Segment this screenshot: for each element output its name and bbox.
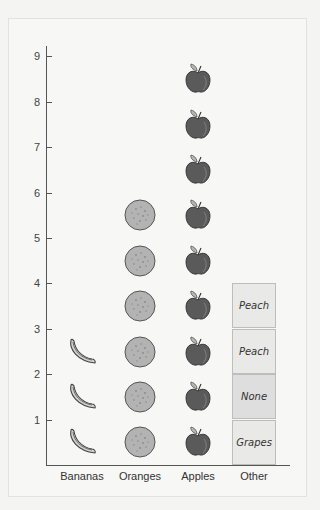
y-tick-label: 9 [28, 50, 40, 62]
y-tick-label: 4 [28, 277, 40, 289]
banana-icon [65, 380, 99, 414]
apple-icon [181, 198, 215, 232]
y-tick-mark [46, 283, 52, 284]
x-category-label: Apples [168, 470, 228, 482]
banana-icon [65, 335, 99, 369]
apple-icon [181, 153, 215, 187]
y-tick-mark [46, 420, 52, 421]
y-tick-label: 7 [28, 141, 40, 153]
other-cell: Grapes [232, 420, 276, 465]
apple-icon [181, 335, 215, 369]
y-tick-label: 5 [28, 232, 40, 244]
apple-icon [181, 62, 215, 96]
x-axis [46, 465, 290, 466]
apple-icon [181, 380, 215, 414]
orange-icon [123, 244, 157, 278]
apple-icon [181, 425, 215, 459]
y-tick-mark [46, 193, 52, 194]
banana-icon [65, 425, 99, 459]
orange-icon [123, 289, 157, 323]
y-tick-label: 8 [28, 96, 40, 108]
y-tick-mark [46, 329, 52, 330]
y-tick-label: 2 [28, 368, 40, 380]
y-tick-mark [46, 56, 52, 57]
y-tick-mark [46, 374, 52, 375]
x-category-label: Bananas [52, 470, 112, 482]
y-axis [46, 46, 47, 466]
y-tick-mark [46, 238, 52, 239]
y-tick-label: 3 [28, 323, 40, 335]
x-category-label: Other [224, 470, 284, 482]
other-cell: Peach [232, 329, 276, 374]
y-tick-label: 1 [28, 414, 40, 426]
y-tick-mark [46, 102, 52, 103]
other-cell: None [232, 374, 276, 419]
orange-icon [123, 335, 157, 369]
y-tick-mark [46, 147, 52, 148]
orange-icon [123, 380, 157, 414]
orange-icon [123, 198, 157, 232]
apple-icon [181, 244, 215, 278]
apple-icon [181, 289, 215, 323]
other-cell: Peach [232, 283, 276, 328]
y-tick-label: 6 [28, 187, 40, 199]
orange-icon [123, 425, 157, 459]
apple-icon [181, 108, 215, 142]
x-category-label: Oranges [110, 470, 170, 482]
